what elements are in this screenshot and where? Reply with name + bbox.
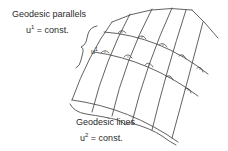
geodesic-lines-equation: u2 = const.: [80, 132, 123, 143]
surface-grid: [0, 0, 228, 151]
geodesic-surface-diagram: Geodesic parallels u1 = const. u1 Geodes…: [0, 0, 228, 151]
lines-const: = const.: [88, 133, 122, 143]
geodesic-parallel-1: [104, 32, 208, 74]
surface-top-edge: [112, 9, 192, 23]
geodesic-line-2: [112, 9, 152, 116]
surface-right-edge: [192, 10, 218, 38]
right-angle-marks-row-2: [101, 51, 191, 94]
geodesic-parallels-equation: u1 = const.: [26, 24, 69, 35]
u1-grid-marker: u1: [91, 47, 98, 55]
right-angle-marks-row-1: [118, 31, 203, 73]
geodesic-line-1: [92, 14, 130, 112]
grid-marker-superscript: 1: [95, 46, 98, 52]
parallels-const: = const.: [34, 25, 68, 35]
geodesic-line-4: [152, 10, 186, 130]
geodesic-parallels-title: Geodesic parallels: [12, 10, 86, 19]
geodesic-lines-title: Geodesic lines: [76, 118, 135, 127]
surface-left-edge: [72, 22, 112, 100]
